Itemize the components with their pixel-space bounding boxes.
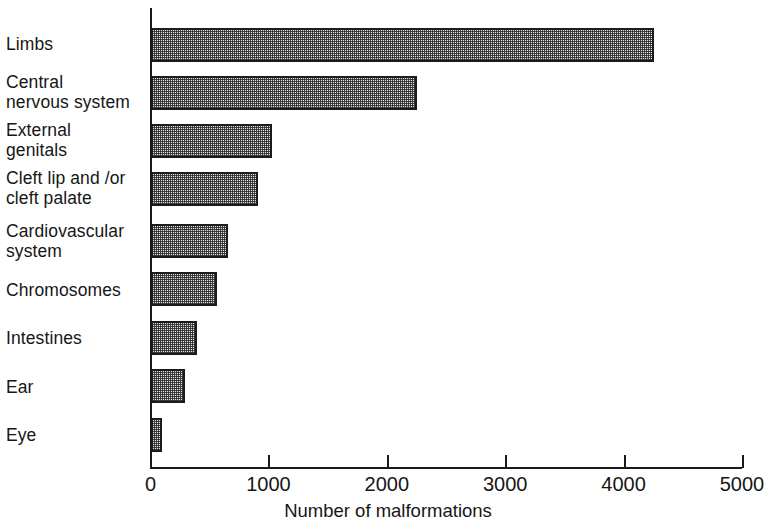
x-tick-mark-1000 xyxy=(268,455,270,468)
category-label-cleft-lip-palate: Cleft lip and /or cleft palate xyxy=(6,168,146,208)
bar-cleft-lip-palate xyxy=(151,172,258,206)
category-label-external-genitals: External genitals xyxy=(6,120,146,160)
x-tick-mark-5000 xyxy=(742,455,744,468)
x-tick-label-3000: 3000 xyxy=(483,472,528,496)
bar-ear xyxy=(151,369,185,403)
x-tick-mark-3000 xyxy=(505,455,507,468)
plot-area: Limbs Central nervous system External ge… xyxy=(0,0,776,528)
bar-intestines xyxy=(151,321,197,355)
x-tick-label-2000: 2000 xyxy=(365,472,410,496)
x-tick-mark-2000 xyxy=(387,455,389,468)
bar-limbs xyxy=(151,28,654,62)
category-label-limbs: Limbs xyxy=(6,34,146,54)
bar-eye xyxy=(151,418,162,452)
category-label-cardiovascular-system: Cardiovascular system xyxy=(6,221,146,261)
x-tick-label-5000: 5000 xyxy=(720,472,765,496)
bar-cardiovascular-system xyxy=(151,224,228,258)
category-label-ear: Ear xyxy=(6,377,146,397)
bar-external-genitals xyxy=(151,124,272,158)
x-tick-label-1000: 1000 xyxy=(246,472,291,496)
x-tick-label-4000: 4000 xyxy=(601,472,646,496)
bar-chart-figure: Limbs Central nervous system External ge… xyxy=(0,0,776,528)
category-label-eye: Eye xyxy=(6,425,146,445)
category-label-central-nervous-system: Central nervous system xyxy=(6,72,146,112)
x-tick-mark-0 xyxy=(150,455,152,468)
x-tick-label-0: 0 xyxy=(145,472,156,496)
category-label-intestines: Intestines xyxy=(6,328,146,348)
x-axis-title: Number of malformations xyxy=(0,500,776,522)
bar-central-nervous-system xyxy=(151,76,417,110)
category-label-chromosomes: Chromosomes xyxy=(6,280,146,300)
x-tick-mark-4000 xyxy=(624,455,626,468)
x-axis-line xyxy=(150,467,742,469)
bar-chromosomes xyxy=(151,272,217,306)
